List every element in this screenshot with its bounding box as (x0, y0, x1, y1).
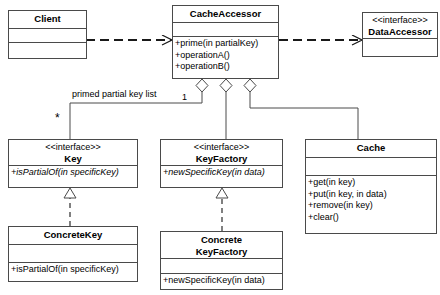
class-attributes-dataaccessor (363, 39, 437, 56)
class-title-concretekeyfactory: Concrete KeyFactory (161, 232, 282, 259)
class-name-concretekey: ConcreteKey (11, 229, 135, 240)
operation-operationb: +operationB() (173, 61, 278, 73)
class-title-cache: Cache (306, 140, 436, 158)
class-attributes-concretekey (9, 245, 137, 263)
edge-cacheaccessor-to-key (70, 79, 208, 139)
class-name-keyfactory: KeyFactory (163, 153, 280, 164)
class-operations-concretekeyfactory: +newSpecificKey(in data) (161, 274, 282, 289)
edge-cacheaccessor-to-cache (244, 79, 358, 139)
class-attributes-client (9, 29, 86, 44)
operation-get: +get(in key) (306, 177, 436, 189)
class-name-concretekeyfactory-line1: Concrete (163, 234, 280, 246)
operation-ispartialof-concretekey: +isPartialOf(in specificKey) (9, 264, 137, 276)
multiplicity-target-many: * (55, 115, 60, 121)
class-box-keyfactory[interactable]: <<interface>> KeyFactory +newSpecificKey… (160, 139, 283, 188)
class-operations-keyfactory: +newSpecificKey(in data) (161, 166, 282, 187)
class-box-cacheaccessor[interactable]: CacheAccessor +prime(in partialKey) +ope… (172, 5, 279, 79)
operation-ispartialof-key: +isPartialOf(in specificKey) (9, 167, 137, 179)
class-title-cacheaccessor: CacheAccessor (173, 6, 278, 23)
class-box-key[interactable]: <<interface>> Key +isPartialOf(in specif… (8, 139, 138, 188)
class-operations-client (9, 43, 86, 58)
edge-concretekeyfactory-realizes-keyfactory (216, 188, 228, 231)
operation-operationa: +operationA() (173, 50, 278, 62)
class-title-concretekey: ConcreteKey (9, 227, 137, 245)
edge-cacheaccessor-to-keyfactory (220, 79, 232, 139)
class-title-client: Client (9, 11, 86, 29)
stereotype-interface-keyfactory: <<interface>> (163, 142, 280, 153)
class-operations-concretekey: +isPartialOf(in specificKey) (9, 263, 137, 281)
class-box-cache[interactable]: Cache +get(in key) +put(in key, in data)… (305, 139, 437, 234)
class-title-key: <<interface>> Key (9, 140, 137, 166)
class-box-dataaccessor[interactable]: <<interface>> DataAccessor (362, 12, 438, 57)
class-operations-cacheaccessor: +prime(in partialKey) +operationA() +ope… (173, 37, 278, 78)
uml-class-diagram: CacheAccessor dependency (dashed, open a… (0, 0, 440, 295)
class-attributes-concretekeyfactory (161, 259, 282, 274)
class-box-concretekey[interactable]: ConcreteKey +isPartialOf(in specificKey) (8, 226, 138, 282)
class-title-dataaccessor: <<interface>> DataAccessor (363, 13, 437, 39)
association-label-primed-partial-key-list: primed partial key list (72, 89, 157, 99)
operation-newspecifickey-concretekeyfactory: +newSpecificKey(in data) (161, 275, 282, 287)
class-title-keyfactory: <<interface>> KeyFactory (161, 140, 282, 166)
class-name-cache: Cache (308, 142, 434, 153)
class-name-key: Key (11, 153, 135, 164)
class-name-concretekeyfactory-line2: KeyFactory (163, 246, 280, 258)
stereotype-interface-dataaccessor: <<interface>> (365, 15, 435, 26)
multiplicity-source-one: 1 (182, 92, 187, 102)
operation-remove: +remove(in key) (306, 200, 436, 212)
class-attributes-cacheaccessor (173, 23, 278, 37)
stereotype-interface-key: <<interface>> (11, 142, 135, 153)
class-operations-cache: +get(in key) +put(in key, in data) +remo… (306, 176, 436, 233)
operation-prime: +prime(in partialKey) (173, 38, 278, 50)
operation-newspecifickey-keyfactory: +newSpecificKey(in data) (161, 167, 282, 179)
class-operations-key: +isPartialOf(in specificKey) (9, 166, 137, 187)
class-name-dataaccessor: DataAccessor (365, 26, 435, 37)
operation-put: +put(in key, in data) (306, 189, 436, 201)
class-box-client[interactable]: Client (8, 10, 87, 59)
edge-concretekey-realizes-key (64, 188, 76, 226)
class-name-client: Client (11, 13, 84, 24)
class-name-cacheaccessor: CacheAccessor (175, 8, 276, 19)
class-box-concretekeyfactory[interactable]: Concrete KeyFactory +newSpecificKey(in d… (160, 231, 283, 290)
class-attributes-cache (306, 158, 436, 176)
operation-clear: +clear() (306, 212, 436, 224)
